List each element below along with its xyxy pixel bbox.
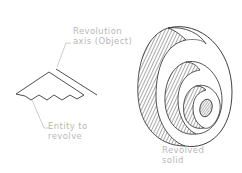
axis-leader <box>57 43 71 67</box>
axis-label-line2: axis (Object) <box>73 37 132 47</box>
entity-profile <box>16 72 84 100</box>
revolved-solid <box>138 27 232 147</box>
entity-label-line2: revolve <box>48 132 82 142</box>
solid-label-line2: solid <box>162 156 184 166</box>
entity-leader <box>32 100 49 128</box>
revolution-axis <box>56 69 97 95</box>
